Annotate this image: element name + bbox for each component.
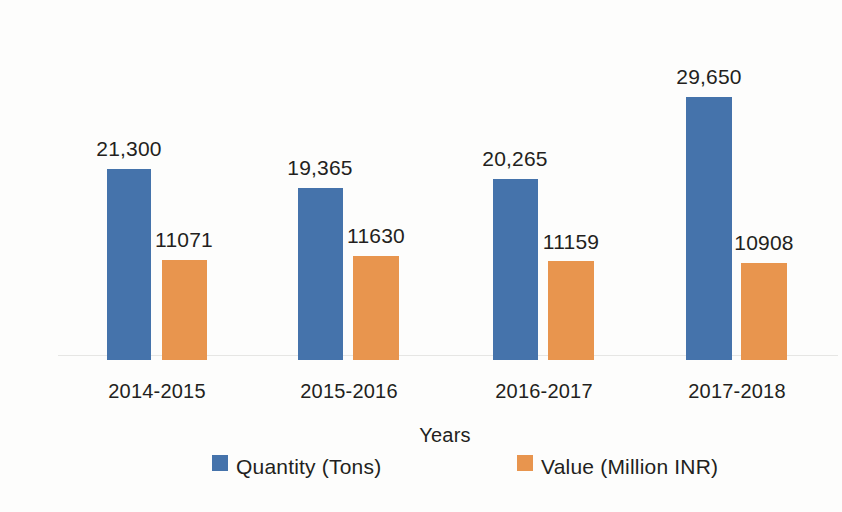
category-label-2015-2016: 2015-2016 <box>294 380 404 402</box>
legend-label-quantity: Quantity (Tons) <box>236 455 381 479</box>
legend-label-value: Value (Million INR) <box>541 455 718 479</box>
bar-label-value-2017-2018: 10908 <box>714 232 814 253</box>
bar-label-value-2016-2017: 11159 <box>521 231 621 252</box>
x-axis-title: Years <box>0 424 842 446</box>
bar-label-quantity-2015-2016: 19,365 <box>270 157 370 178</box>
category-label-2014-2015: 2014-2015 <box>102 380 212 402</box>
bar-value-2015-2016[interactable] <box>353 256 399 360</box>
bar-label-value-2015-2016: 11630 <box>326 225 426 246</box>
bar-value-2016-2017[interactable] <box>548 261 594 360</box>
bar-label-value-2014-2015: 11071 <box>134 229 234 250</box>
legend: Quantity (Tons) Value (Million INR) <box>0 452 842 492</box>
bar-value-2014-2015[interactable] <box>162 260 207 360</box>
legend-swatch-quantity-icon <box>212 455 228 471</box>
category-label-2016-2017: 2016-2017 <box>489 380 599 402</box>
bar-quantity-2017-2018[interactable] <box>686 97 732 360</box>
legend-swatch-value-icon <box>517 455 533 471</box>
bar-label-quantity-2017-2018: 29,650 <box>659 66 759 87</box>
bar-value-2017-2018[interactable] <box>741 263 787 360</box>
bar-quantity-2016-2017[interactable] <box>493 179 538 360</box>
legend-item-quantity[interactable]: Quantity (Tons) <box>212 452 381 482</box>
bar-chart: 21,300 11071 19,365 11630 20,265 11159 2… <box>0 0 842 512</box>
bar-label-quantity-2016-2017: 20,265 <box>465 148 565 169</box>
legend-item-value[interactable]: Value (Million INR) <box>517 452 718 482</box>
category-label-2017-2018: 2017-2018 <box>682 380 792 402</box>
bar-quantity-2015-2016[interactable] <box>298 188 343 360</box>
plot-area: 21,300 11071 19,365 11630 20,265 11159 2… <box>0 0 842 360</box>
bar-quantity-2014-2015[interactable] <box>107 169 151 360</box>
x-axis-title-text: Years <box>419 424 470 446</box>
bar-label-quantity-2014-2015: 21,300 <box>79 138 179 159</box>
